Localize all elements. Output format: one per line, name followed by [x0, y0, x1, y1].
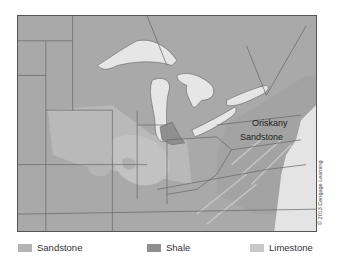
legend-label-shale: Shale	[166, 242, 190, 253]
legend-label-sandstone: Sandstone	[37, 242, 82, 253]
oriskany-label-line1: Oriskany	[252, 118, 288, 129]
shale-swatch	[147, 244, 161, 252]
copyright-notice: © 2013 Cengage Learning	[317, 160, 323, 225]
oriskany-label-line2: Sandstone	[240, 132, 283, 143]
legend-label-limestone: Limestone	[269, 242, 313, 253]
legend-item-shale: Shale	[147, 242, 190, 253]
legend-item-limestone: Limestone	[250, 242, 313, 253]
legend: Sandstone Shale Limestone	[0, 238, 342, 258]
legend-item-sandstone: Sandstone	[18, 242, 82, 253]
sandstone-swatch	[18, 244, 32, 252]
limestone-swatch	[250, 244, 264, 252]
